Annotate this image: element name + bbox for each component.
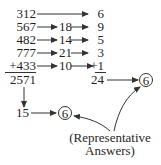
sum-result: 6 bbox=[62, 106, 69, 121]
pointer-arrow-icon bbox=[114, 87, 140, 131]
sum-total: 2571 bbox=[10, 72, 36, 87]
addend-5: +433 bbox=[9, 58, 36, 73]
row-arrows bbox=[37, 14, 138, 80]
digit-result-circle: 6 bbox=[140, 73, 153, 88]
pointer-arrow-icon bbox=[74, 116, 110, 131]
digit-sum-total: 24 bbox=[91, 72, 105, 87]
sum-result-circle: 6 bbox=[59, 106, 72, 121]
casting-out-nines-diagram: 312 567 482 777 +433 2571 18 14 21 10 6 … bbox=[0, 0, 161, 165]
intermediate-column: 18 14 21 10 bbox=[59, 19, 73, 73]
digit-result: 6 bbox=[143, 73, 150, 88]
addend-column: 312 567 482 777 +433 2571 bbox=[5, 6, 37, 87]
sum-reduced: 15 bbox=[16, 105, 29, 120]
label-line-2: Answers) bbox=[85, 143, 135, 158]
digit-sum-column: 6 9 5 3 +1 24 bbox=[90, 6, 106, 87]
intermediate-5: 10 bbox=[59, 58, 72, 73]
